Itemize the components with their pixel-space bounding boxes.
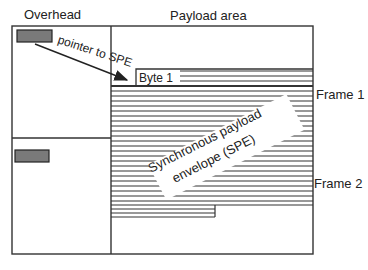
payload-area-label: Payload area (170, 8, 247, 23)
pointer-byte-frame1 (17, 30, 52, 42)
frame1-label: Frame 1 (316, 87, 364, 102)
pointer-byte-frame2 (15, 150, 49, 162)
overhead-label: Overhead (24, 7, 81, 22)
byte1-label: Byte 1 (139, 71, 173, 85)
sonet-frame-diagram: Overhead Payload area pointer to SPE Byt… (0, 0, 368, 270)
frame2-label: Frame 2 (314, 176, 362, 191)
pointer-label: pointer to SPE (56, 33, 134, 70)
